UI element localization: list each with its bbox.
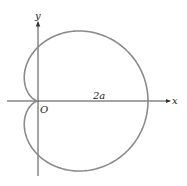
origin-label: O: [40, 104, 48, 115]
cardioid-diagram: x y O 2a: [0, 0, 187, 186]
x-axis-label: x: [172, 95, 178, 106]
y-axis-label: y: [34, 10, 41, 21]
width-label: 2a: [92, 90, 105, 101]
